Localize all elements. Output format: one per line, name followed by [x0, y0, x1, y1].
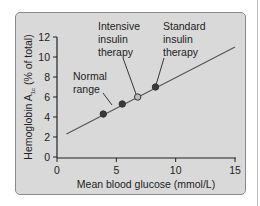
x-tick-label: 10 — [170, 164, 182, 176]
annotation-intensive: Intensiveinsulintherapy — [98, 20, 140, 94]
y-tick-label: 10 — [38, 51, 50, 63]
data-point — [100, 111, 106, 117]
svg-text:Normalrange: Normalrange — [73, 70, 107, 95]
x-axis-label: Mean blood glucose (mmol/L) — [77, 178, 215, 190]
y-axis-label: Hemoglobin A1c (% of total) — [22, 34, 36, 159]
data-point — [134, 94, 140, 100]
y-tick-label: 12 — [38, 31, 50, 43]
x-tick-label: 15 — [229, 164, 241, 176]
data-point — [152, 84, 158, 90]
x-tick-label: 0 — [54, 164, 60, 176]
y-tick-label: 4 — [44, 111, 50, 123]
y-tick-label: 6 — [44, 91, 50, 103]
x-tick-label: 5 — [113, 164, 119, 176]
data-point — [119, 101, 125, 107]
annotation-normal-range: Normalrange — [73, 70, 112, 105]
y-tick-label: 0 — [44, 151, 50, 163]
chart: 024681012 051015 Normalrange Intensivein… — [0, 0, 260, 206]
svg-text:Standardinsulintherapy: Standardinsulintherapy — [163, 20, 206, 58]
y-tick-label: 2 — [44, 131, 50, 143]
y-tick-label: 8 — [44, 71, 50, 83]
svg-text:Intensiveinsulintherapy: Intensiveinsulintherapy — [98, 20, 140, 58]
